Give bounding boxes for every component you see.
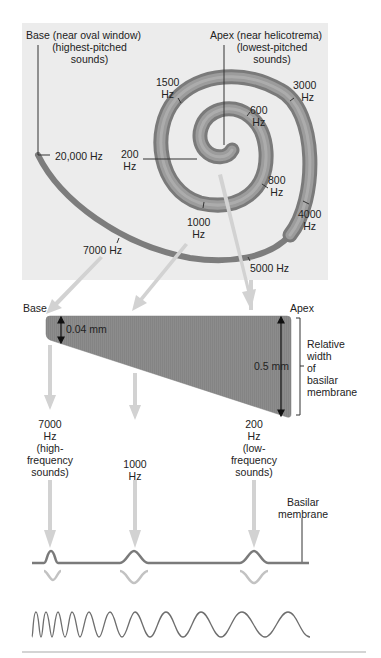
base-subtitle-2: sounds) bbox=[26, 53, 141, 65]
basilar-membrane-label: Basilar membrane bbox=[275, 496, 331, 520]
freq-label-5000: 5000 Hz bbox=[250, 262, 289, 274]
base-label: Base (near oval window) (highest-pitched… bbox=[26, 29, 141, 65]
freq-label-4000: 4000Hz bbox=[298, 208, 321, 232]
base-title: Base (near oval window) bbox=[26, 29, 141, 41]
response-1000-label: 1000 Hz bbox=[115, 458, 155, 482]
freq-label-200: 200Hz bbox=[121, 148, 139, 172]
freq-label-20000: 20,000 Hz bbox=[55, 150, 103, 162]
freq-label-1000: 1000Hz bbox=[187, 216, 210, 240]
freq-label-1500: 1500Hz bbox=[156, 76, 179, 100]
apex-label: Apex (near helicotrema) (lowest-pitched … bbox=[210, 29, 322, 65]
freq-label-7000: 7000 Hz bbox=[83, 244, 122, 256]
diagram-graphics bbox=[0, 0, 381, 658]
freq-label-600: 600Hz bbox=[250, 104, 268, 128]
traveling-wave bbox=[32, 612, 310, 637]
wide-width-label: 0.5 mm bbox=[254, 360, 289, 372]
apex-subtitle-2: sounds) bbox=[210, 53, 322, 65]
base-subtitle-1: (highest-pitched bbox=[26, 41, 141, 53]
cochlea-frequency-diagram: Base (near oval window) (highest-pitched… bbox=[0, 0, 381, 658]
response-200-label: 200 Hz (low- frequency sounds) bbox=[228, 418, 280, 478]
apex-subtitle-1: (lowest-pitched bbox=[210, 41, 322, 53]
response-7000-label: 7000 Hz (high- frequency sounds) bbox=[24, 418, 76, 478]
freq-label-800: 800Hz bbox=[268, 174, 286, 198]
relative-width-bracket bbox=[296, 318, 304, 415]
membrane-displacement bbox=[32, 551, 309, 583]
relative-width-label: Relative width of basilar membrane bbox=[307, 338, 357, 398]
freq-label-3000: 3000Hz bbox=[293, 79, 316, 103]
apex-title: Apex (near helicotrema) bbox=[210, 29, 322, 41]
narrow-width-label: 0.04 mm bbox=[66, 323, 107, 335]
membrane-apex-label: Apex bbox=[290, 302, 314, 314]
membrane-base-label: Base bbox=[23, 302, 47, 314]
